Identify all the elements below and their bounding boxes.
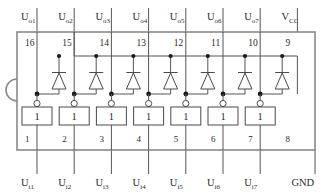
top-pin-number: 15	[62, 38, 72, 48]
clamp-diode-body	[89, 73, 103, 89]
pin-one-notch	[6, 79, 17, 101]
bottom-pin-label: Ui6	[207, 177, 221, 191]
bottom-pin-labels: Ui1Ui2Ui3Ui4Ui5Ui6Ui7GND	[21, 177, 315, 191]
clamp-diode-body	[201, 73, 215, 89]
clamp-diode-body	[126, 73, 140, 89]
clamp-diode-body	[52, 73, 66, 89]
bottom-pin-number: 8	[285, 134, 290, 144]
rail-junction-dot	[169, 54, 173, 58]
buffer-symbol-label: 1	[220, 111, 225, 122]
clamp-diode-body	[238, 73, 252, 89]
buffer-symbol-label: 1	[109, 111, 114, 122]
buffer-symbol-label: 1	[258, 111, 263, 122]
top-pin-number: 14	[99, 38, 109, 48]
channel: 1	[59, 32, 103, 150]
diode-anode-lead	[223, 89, 245, 94]
top-pin-number: 16	[25, 38, 35, 48]
rail-junction-dot	[280, 54, 284, 58]
bottom-pin-number: 1	[25, 134, 30, 144]
top-pin-label: Uo3	[95, 11, 110, 25]
rail-junction-dot	[57, 54, 61, 58]
channel: 1	[96, 32, 140, 150]
bottom-pin-number: 3	[99, 134, 104, 144]
buffer-symbol-label: 1	[72, 111, 77, 122]
ic-body-outline	[17, 32, 315, 150]
rail-junction-dot	[94, 54, 98, 58]
channel: 1	[208, 32, 252, 150]
bottom-pin-label: Ui7	[244, 177, 258, 191]
inversion-bubble	[108, 100, 114, 106]
bottom-pin-numbers: 12345678	[25, 134, 290, 144]
bottom-pin-label: Ui4	[133, 177, 147, 191]
diode-anode-lead	[74, 89, 96, 94]
clamp-diode-body	[164, 73, 178, 89]
diode-anode-lead	[260, 89, 282, 94]
top-pin-number: 13	[137, 38, 147, 48]
bottom-lead-wires	[37, 150, 315, 174]
schematic-canvas: Uo1Uo2Uo3Uo4Uo5Uo6Uo7VCC Ui1Ui2Ui3Ui4Ui5…	[0, 0, 332, 196]
buffer-symbol-label: 1	[34, 111, 39, 122]
top-pin-label: Uo1	[21, 11, 36, 25]
bottom-pin-label: Ui2	[58, 177, 72, 191]
schematic-svg: Uo1Uo2Uo3Uo4Uo5Uo6Uo7VCC Ui1Ui2Ui3Ui4Ui5…	[0, 0, 332, 196]
top-pin-label: Uo4	[133, 11, 148, 25]
bottom-pin-number: 2	[62, 134, 66, 144]
diode-anode-lead	[111, 89, 133, 94]
top-pin-number: 11	[211, 38, 220, 48]
inversion-bubble	[71, 100, 77, 106]
buffer-symbol-label: 1	[183, 111, 188, 122]
top-pin-labels: Uo1Uo2Uo3Uo4Uo5Uo6Uo7VCC	[21, 11, 299, 25]
channel: 1	[22, 32, 66, 150]
channel: 1	[134, 32, 178, 150]
inversion-bubble	[220, 100, 226, 106]
diode-anode-lead	[186, 89, 208, 94]
bottom-pin-number: 6	[211, 134, 216, 144]
inversion-bubble	[257, 100, 263, 106]
channel: 1	[171, 32, 215, 150]
bottom-pin-label: GND	[291, 177, 314, 188]
diode-anode-lead	[149, 89, 171, 94]
top-pin-number: 12	[174, 38, 184, 48]
bottom-pin-label: Ui5	[170, 177, 184, 191]
inversion-bubble	[146, 100, 152, 106]
bottom-pin-label: Ui1	[21, 177, 35, 191]
inversion-bubble	[34, 100, 40, 106]
rail-junction-dot	[206, 54, 210, 58]
top-pin-label: Uo7	[244, 11, 259, 25]
diode-anode-lead	[37, 89, 59, 94]
top-pin-label: Uo5	[170, 11, 185, 25]
bottom-pin-number: 4	[137, 134, 142, 144]
inversion-bubble	[183, 100, 189, 106]
top-pin-numbers: 161514131211109	[25, 38, 290, 48]
top-pin-number: 10	[248, 38, 258, 48]
bottom-pin-number: 5	[174, 134, 179, 144]
rail-junction-dot	[243, 54, 247, 58]
bottom-pin-label: Ui3	[95, 177, 109, 191]
top-pin-number: 9	[285, 38, 290, 48]
rail-junction-dot	[131, 54, 135, 58]
channel: 1	[245, 32, 289, 150]
clamp-diode-body	[275, 73, 289, 89]
top-pin-label: VCC	[281, 11, 298, 25]
channel-group: 1111111	[22, 32, 289, 150]
buffer-symbol-label: 1	[146, 111, 151, 122]
top-pin-label: Uo6	[207, 11, 222, 25]
bottom-pin-number: 7	[248, 134, 253, 144]
top-pin-label: Uo2	[58, 11, 73, 25]
